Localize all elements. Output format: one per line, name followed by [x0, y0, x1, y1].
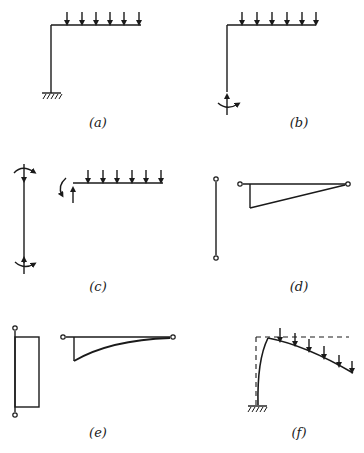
panel-c-end-moment-icon: [60, 178, 66, 195]
panel-c-distributed-load-arrows: [88, 170, 161, 181]
panel-d-triangular-moment-diagram: [238, 182, 350, 208]
panel-c-column-free-body: [14, 164, 34, 274]
panel-f-deflected-shape: [258, 338, 353, 405]
panel-a-label: (a): [89, 115, 107, 130]
structural-diagram-figure: (a) (b) (c) (d) (e) (f): [0, 0, 364, 453]
panel-c-top-moment-icon: [14, 164, 34, 180]
panel-c-bottom-moment-icon: [15, 259, 34, 274]
panel-a-fixed-support-icon: [42, 93, 62, 99]
panel-b-label: (b): [290, 115, 308, 130]
panel-f-deflected-frame: [248, 328, 353, 412]
panel-e-parabolic-moment-diagram: [61, 335, 175, 361]
panel-b-frame: [218, 12, 316, 115]
panel-f-fixed-support-icon: [248, 406, 267, 412]
panel-c-label: (c): [89, 279, 106, 294]
panel-a-frame: [42, 12, 141, 99]
panel-f-distributed-load-arrows: [280, 328, 352, 371]
panel-a-distributed-load-arrows: [67, 12, 139, 23]
panel-f-original-geometry-dashed: [256, 337, 349, 405]
panel-f-label: (f): [292, 425, 307, 440]
panel-d-column-diagram: [214, 177, 218, 260]
panel-d-label: (d): [290, 279, 308, 294]
panel-e-label: (e): [89, 425, 107, 440]
panel-b-base-reaction-icon: [218, 96, 238, 115]
panel-c-beam-free-body: [60, 170, 163, 203]
diagram-drawing: [0, 0, 364, 453]
panel-e-rectangular-moment-diagram: [13, 326, 39, 417]
panel-b-distributed-load-arrows: [242, 12, 316, 23]
